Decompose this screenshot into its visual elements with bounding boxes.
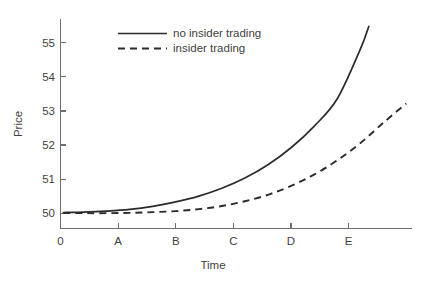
chart-legend: no insider tradinginsider trading (118, 27, 261, 54)
y-axis-ticks: 505152535455 (42, 37, 66, 219)
y-tick-label: 52 (42, 139, 55, 151)
y-tick-label: 53 (42, 105, 55, 117)
legend-label: no insider trading (173, 27, 261, 39)
x-tick-label: 0 (57, 235, 63, 247)
x-tick-label: C (229, 235, 237, 247)
y-axis-title: Price (12, 111, 24, 137)
chart-series-group (63, 26, 406, 213)
x-axis-ticks: 0ABCDE (57, 223, 352, 248)
y-tick-label: 54 (42, 71, 55, 83)
y-tick-label: 51 (42, 173, 55, 185)
x-axis-title: Time (200, 259, 225, 271)
x-tick-label: D (287, 235, 295, 247)
x-tick-label: A (114, 235, 122, 247)
chart-container: 505152535455 0ABCDE Price Time no inside… (0, 0, 430, 285)
x-tick-label: E (345, 235, 353, 247)
y-tick-label: 55 (42, 37, 55, 49)
y-tick-label: 50 (42, 207, 55, 219)
legend-label: insider trading (173, 42, 245, 54)
series-line-solid (63, 26, 368, 212)
price-time-line-chart: 505152535455 0ABCDE Price Time no inside… (0, 0, 430, 285)
series-line-dashed (63, 103, 406, 213)
x-tick-label: B (172, 235, 180, 247)
